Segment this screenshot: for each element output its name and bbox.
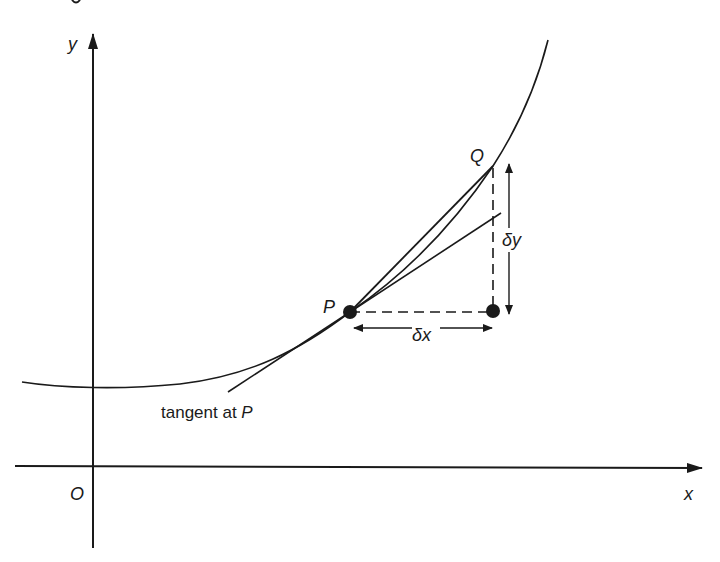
x-axis-label: x: [683, 484, 694, 504]
dy-label: δy: [502, 230, 522, 250]
x-axis: [15, 466, 702, 468]
cropped-text-fragment: [72, 0, 80, 3]
point-p-label: P: [323, 297, 335, 317]
tangent-line: [228, 213, 501, 392]
dx-label: δx: [412, 325, 432, 345]
origin-label: O: [70, 484, 84, 504]
chord-pq: [350, 166, 493, 312]
point-p-dot: [343, 305, 357, 319]
gradient-diagram: y x O P Q δy δx tangent at P: [0, 0, 720, 562]
tangent-label: tangent at P: [161, 403, 253, 422]
corner-point-dot: [486, 304, 500, 318]
y-axis-label: y: [66, 34, 78, 54]
tangent-label-prefix: tangent at: [161, 403, 241, 422]
tangent-label-point: P: [241, 403, 253, 422]
function-curve: [22, 40, 548, 388]
point-q-label: Q: [470, 146, 484, 166]
